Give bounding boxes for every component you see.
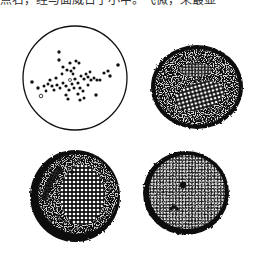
panel-a-scattered-granules (23, 26, 127, 130)
panel-b-stippled-cell (151, 45, 243, 129)
cell-illustration (0, 0, 257, 257)
panel-d-stippled-cell (143, 151, 229, 235)
panel-c-stippled-cell (30, 150, 120, 242)
